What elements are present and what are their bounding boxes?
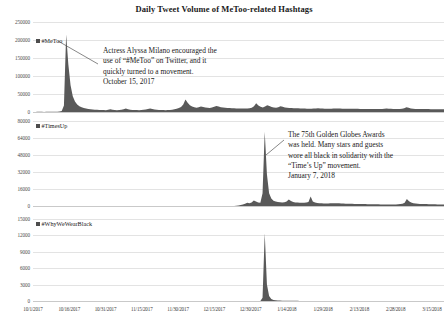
y-axis-tick-label: 0 xyxy=(0,298,30,304)
chart-title: Daily Tweet Volume of MeToo-related Hash… xyxy=(0,4,448,14)
y-axis-tick-label: 0 xyxy=(0,109,30,115)
x-axis-tick-label: 10/31/2017 xyxy=(95,306,117,312)
y-axis-tick-label: 64000 xyxy=(0,135,30,141)
y-axis-tick-label: 3000 xyxy=(0,282,30,288)
x-axis-tick-label: 1/29/2018 xyxy=(313,306,332,312)
series-area-timesup xyxy=(33,121,444,208)
x-axis-tick-label: 11/30/2017 xyxy=(167,306,189,312)
x-axis-tick-label: 3/15/2018 xyxy=(422,306,441,312)
y-axis-tick-label: 100000 xyxy=(0,73,30,79)
x-axis-tick-label: 1/14/2018 xyxy=(277,306,296,312)
y-axis-tick-label: 80000 xyxy=(0,118,30,124)
panel-metoo: 050000100000150000200000250000 #MeToo Ac… xyxy=(0,16,448,112)
y-axis-tick-label: 32000 xyxy=(0,169,30,175)
x-axis-tick-label: 12/30/2017 xyxy=(240,306,262,312)
y-axis-tick-label: 150000 xyxy=(0,55,30,61)
x-axis-tick-label: 10/16/2017 xyxy=(58,306,80,312)
series-area-metoo xyxy=(33,22,444,114)
y-axis-tick-label: 250000 xyxy=(0,19,30,25)
panel-whywewearblack: 03000600090001200015000 #WhyWeWearBlack xyxy=(0,216,448,304)
x-axis-tick-label: 2/28/2018 xyxy=(386,306,405,312)
x-axis-tick-label: 11/15/2017 xyxy=(131,306,153,312)
y-axis-tick-label: 16000 xyxy=(0,186,30,192)
x-axis-tick-label: 12/15/2017 xyxy=(203,306,225,312)
x-axis-tick-label: 2/13/2018 xyxy=(350,306,369,312)
series-area-whywewearblack xyxy=(33,219,444,303)
x-axis-labels: 10/1/201710/16/201710/31/201711/15/20171… xyxy=(0,306,448,318)
x-axis-tick-label: 10/1/2017 xyxy=(23,306,42,312)
panel-timesup: 01600032000480006400080000 #TimesUp The … xyxy=(0,118,448,210)
y-axis-tick-label: 9000 xyxy=(0,249,30,255)
y-axis-tick-label: 6000 xyxy=(0,265,30,271)
y-axis-tick-label: 50000 xyxy=(0,91,30,97)
y-axis-tick-label: 15000 xyxy=(0,216,30,222)
y-axis-tick-label: 200000 xyxy=(0,37,30,43)
y-axis-tick-label: 12000 xyxy=(0,232,30,238)
y-axis-tick-label: 48000 xyxy=(0,152,30,158)
chart-figure: Daily Tweet Volume of MeToo-related Hash… xyxy=(0,0,448,328)
y-axis-tick-label: 0 xyxy=(0,203,30,209)
